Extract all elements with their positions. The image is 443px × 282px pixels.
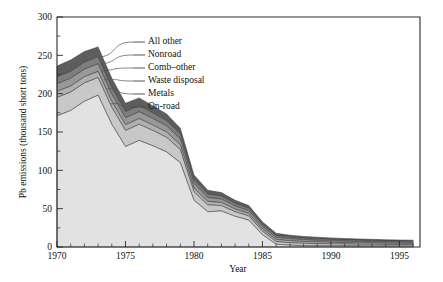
x-tick-label: 1995: [390, 251, 409, 261]
legend-label-comb-other: Comb–other: [148, 62, 196, 72]
y-tick-label: 100: [38, 166, 53, 176]
legend-label-waste-disposal: Waste disposal: [148, 75, 205, 85]
y-tick-label: 150: [38, 127, 53, 137]
x-tick-label: 1970: [48, 251, 67, 261]
legend-label-metals: Metals: [148, 88, 174, 98]
legend-label-all-other: All other: [148, 36, 183, 46]
leader-line-0: [100, 42, 133, 57]
chart-legend: All otherNonroadComb–otherWaste disposal…: [148, 36, 205, 111]
y-tick-label: 250: [38, 51, 53, 61]
x-tick-label: 1985: [253, 251, 272, 261]
x-tick-label: 1980: [184, 251, 203, 261]
legend-label-on-road: On-road: [148, 101, 180, 111]
x-tick-label: 1975: [116, 251, 135, 261]
y-tick-label: 50: [43, 204, 53, 214]
pb-emissions-stacked-area-chart: All otherNonroadComb–otherWaste disposal…: [0, 0, 443, 282]
legend-label-nonroad: Nonroad: [148, 49, 181, 59]
leader-line-1: [101, 55, 133, 64]
y-axis-title: Pb emissions (thousand short tons): [18, 66, 29, 198]
y-tick-label: 200: [38, 89, 53, 99]
x-tick-label: 1990: [321, 251, 340, 261]
y-tick-label: 300: [38, 12, 53, 22]
x-axis-title: Year: [229, 264, 247, 274]
stacked-area-bands: [57, 47, 413, 247]
chart-canvas: All otherNonroadComb–otherWaste disposal…: [0, 0, 443, 282]
